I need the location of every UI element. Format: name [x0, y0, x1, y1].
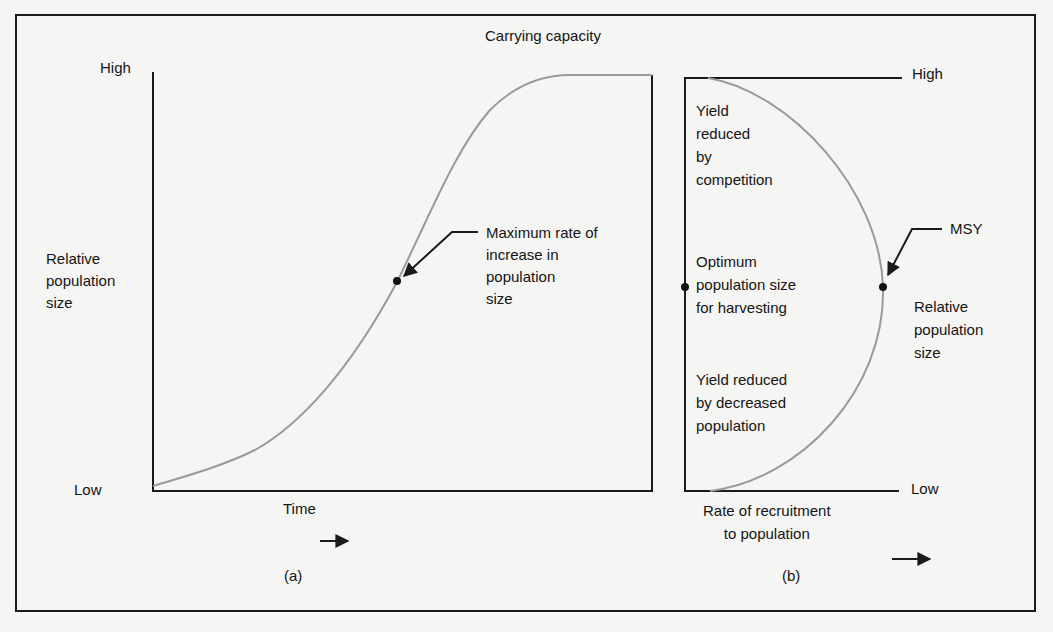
- figure-graphics: [0, 0, 1053, 632]
- panel-a-y-low-label: Low: [74, 480, 102, 500]
- panel-a-y-high-label: High: [100, 58, 131, 78]
- max-increase-annotation: Maximum rate of increase in population s…: [486, 222, 598, 310]
- panel-a-caption: (a): [284, 566, 302, 586]
- optimum-population-label: Optimum population size for harvesting: [696, 250, 796, 319]
- msy-arrow-icon: [888, 229, 942, 275]
- panel-b-caption: (b): [782, 566, 800, 586]
- carrying-capacity-label: Carrying capacity: [485, 26, 601, 46]
- panel-b-y-low-label: Low: [911, 479, 939, 499]
- panel-b-y-axis-label: Relative population size: [914, 295, 983, 364]
- optimum-population-marker: [681, 283, 689, 291]
- region-decreased-population-label: Yield reduced by decreased population: [696, 368, 787, 437]
- msy-marker: [879, 283, 887, 291]
- panel-b-x-axis-label: Rate of recruitment to population: [703, 499, 831, 545]
- panel-a-y-axis-label: Relative population size: [46, 248, 115, 314]
- panel-b-y-high-label: High: [912, 64, 943, 84]
- inflection-arrow-icon: [404, 232, 478, 276]
- inflection-point-marker: [393, 277, 401, 285]
- region-competition-label: Yield reduced by competition: [696, 99, 773, 191]
- msy-label: MSY: [950, 219, 983, 239]
- panel-a-x-axis-label: Time: [283, 499, 316, 519]
